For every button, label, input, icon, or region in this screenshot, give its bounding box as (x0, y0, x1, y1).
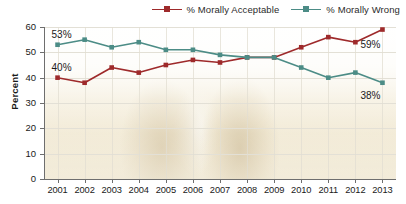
data-point-marker[interactable] (136, 70, 141, 75)
legend-swatch-morally-acceptable (152, 5, 182, 14)
data-point-marker[interactable] (82, 37, 87, 42)
data-point-marker[interactable] (326, 75, 331, 80)
data-point-marker[interactable] (218, 60, 223, 65)
y-axis-tick-label: 60 (10, 21, 36, 32)
legend-item-morally-wrong[interactable]: % Morally Wrong (291, 4, 400, 15)
x-axis-tick-mark (112, 179, 113, 183)
annotation-left-morally-acceptable: 40% (52, 62, 72, 73)
data-point-marker[interactable] (218, 53, 223, 58)
x-axis-tick-label: 2009 (259, 185, 289, 195)
data-point-marker[interactable] (245, 55, 250, 60)
data-point-marker[interactable] (380, 80, 385, 85)
x-axis-tick-label: 2002 (70, 185, 100, 195)
x-axis-tick-label: 2012 (340, 185, 370, 195)
y-axis-tick-label: 50 (10, 46, 36, 57)
annotation-left-morally-wrong: 53% (52, 29, 72, 40)
data-point-marker[interactable] (109, 65, 114, 70)
x-axis-tick-mark (247, 179, 248, 183)
legend-item-morally-acceptable[interactable]: % Morally Acceptable (152, 4, 280, 15)
data-point-marker[interactable] (380, 27, 385, 32)
legend-label-morally-wrong: % Morally Wrong (326, 4, 400, 15)
y-axis-tick-label: 30 (10, 97, 36, 108)
data-point-marker[interactable] (164, 63, 169, 68)
x-axis-tick-mark (382, 179, 383, 183)
y-axis-tick-mark (40, 179, 44, 180)
y-axis-tick-label: 0 (10, 173, 36, 184)
y-axis-tick-label: 40 (10, 72, 36, 83)
x-axis-tick-mark (139, 179, 140, 183)
x-axis-tick-label: 2001 (43, 185, 73, 195)
data-point-marker[interactable] (299, 45, 304, 50)
data-point-marker[interactable] (191, 58, 196, 63)
data-point-marker[interactable] (55, 75, 60, 80)
series-lines (44, 27, 396, 179)
legend-label-morally-acceptable: % Morally Acceptable (187, 4, 280, 15)
data-point-marker[interactable] (191, 48, 196, 53)
data-point-marker[interactable] (299, 65, 304, 70)
data-point-marker[interactable] (136, 40, 141, 45)
x-axis-tick-label: 2007 (205, 185, 235, 195)
data-point-marker[interactable] (326, 35, 331, 40)
y-axis-tick-label: 10 (10, 148, 36, 159)
data-point-marker[interactable] (353, 70, 358, 75)
x-axis-tick-mark (166, 179, 167, 183)
y-axis-title: Percent (9, 62, 20, 122)
x-axis-tick-mark (193, 179, 194, 183)
chart-legend: % Morally Acceptable % Morally Wrong (0, 1, 406, 17)
x-axis-tick-mark (274, 179, 275, 183)
x-axis-tick-mark (301, 179, 302, 183)
line-chart: % Morally Acceptable % Morally Wrong Per… (0, 0, 406, 204)
annotation-right-morally-acceptable: 59% (360, 39, 380, 50)
x-axis-tick-mark (220, 179, 221, 183)
data-point-marker[interactable] (353, 40, 358, 45)
x-axis-tick-mark (85, 179, 86, 183)
x-axis-tick-mark (328, 179, 329, 183)
x-axis-tick-label: 2005 (151, 185, 181, 195)
data-point-marker[interactable] (82, 80, 87, 85)
x-axis-tick-mark (355, 179, 356, 183)
data-point-marker[interactable] (109, 45, 114, 50)
x-axis-tick-mark (58, 179, 59, 183)
x-axis-tick-label: 2010 (286, 185, 316, 195)
x-axis-tick-label: 2008 (232, 185, 262, 195)
annotation-right-morally-wrong: 38% (360, 90, 380, 101)
data-point-marker[interactable] (55, 42, 60, 47)
x-axis-tick-label: 2003 (97, 185, 127, 195)
x-axis-tick-label: 2004 (124, 185, 154, 195)
x-axis-tick-label: 2013 (367, 185, 397, 195)
data-point-marker[interactable] (272, 55, 277, 60)
x-axis-tick-label: 2011 (313, 185, 343, 195)
x-axis-tick-label: 2006 (178, 185, 208, 195)
y-axis-tick-label: 20 (10, 122, 36, 133)
legend-swatch-morally-wrong (291, 5, 321, 14)
data-point-marker[interactable] (164, 48, 169, 53)
